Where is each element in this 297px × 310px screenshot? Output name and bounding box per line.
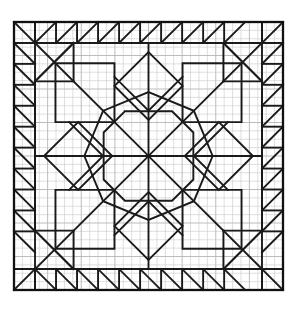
quilt-diagram-canvas xyxy=(0,0,297,310)
quilt-pattern-lines xyxy=(14,22,283,290)
quilt-pattern-svg xyxy=(0,0,297,310)
